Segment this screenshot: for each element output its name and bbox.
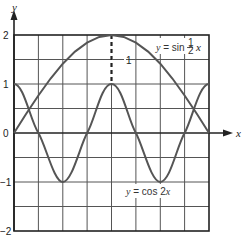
cos-curve-label: y = cos 2x bbox=[125, 186, 171, 197]
x-axis-label: x bbox=[235, 127, 241, 139]
y-tick-2: 2 bbox=[3, 30, 9, 41]
x-axis-arrow-icon bbox=[223, 130, 233, 137]
y-tick-minus-1: −1 bbox=[0, 177, 12, 188]
y-tick-0: 0 bbox=[3, 128, 9, 139]
sin-curve-label: y = sin bbox=[155, 42, 185, 53]
chart: 2 1 0 −1 −2 y x 1 y = sin 1 2 x y = cos … bbox=[0, 0, 248, 240]
y-tick-minus-2: −2 bbox=[0, 226, 12, 237]
y-axis-label: y bbox=[11, 1, 17, 13]
sin-label-var: x bbox=[195, 41, 201, 53]
y-tick-1: 1 bbox=[3, 79, 9, 90]
dashed-annotation-label: 1 bbox=[126, 55, 132, 66]
sin-label-frac-den: 2 bbox=[188, 45, 194, 56]
